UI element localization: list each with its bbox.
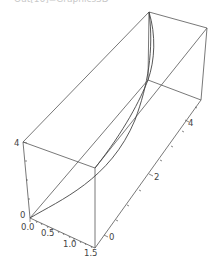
bounding-box bbox=[23, 12, 207, 248]
x-tick-1.0: 1.0 bbox=[63, 239, 77, 249]
y-tick-4: 4 bbox=[188, 118, 193, 128]
z-tick-0: 0 bbox=[20, 210, 25, 220]
space-curve bbox=[30, 12, 151, 218]
x-tick-0.5: 0.5 bbox=[41, 228, 55, 238]
y-axis-ticks bbox=[104, 107, 197, 237]
space-curve-back bbox=[95, 12, 154, 168]
y-tick-0: 0 bbox=[109, 232, 114, 242]
z-tick-4: 4 bbox=[14, 138, 19, 148]
x-tick-1.5: 1.5 bbox=[84, 248, 98, 258]
y-tick-2: 2 bbox=[154, 172, 159, 182]
plot-3d: 4 0 0.0 0.5 1.0 1.5 0 2 4 bbox=[0, 0, 214, 267]
x-tick-0.0: 0.0 bbox=[21, 222, 35, 232]
